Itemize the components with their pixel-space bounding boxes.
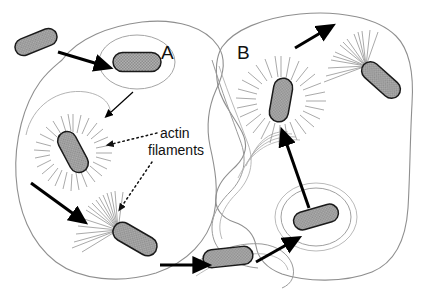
actin-label-line2: filaments xyxy=(148,143,204,158)
bacterium-extracellular xyxy=(12,26,59,58)
cell-b-label: B xyxy=(237,43,250,63)
diagram-canvas xyxy=(0,0,422,292)
actin-comet-tail-cell-a xyxy=(72,191,123,252)
arrow-motility-a xyxy=(31,183,75,215)
bacterium-protrusion xyxy=(202,245,254,268)
bacterium-comet-b xyxy=(358,58,404,102)
bacterium-double-vacuole-b xyxy=(291,202,340,232)
arrow-into-cell-b xyxy=(256,244,288,262)
cell-a-label: A xyxy=(161,43,174,63)
cell-a-nucleus-outline xyxy=(26,91,110,135)
bacterium-actin-cloud-a xyxy=(54,128,91,176)
bacterium-comet-a xyxy=(109,219,160,259)
bacterium-actin-cloud-b xyxy=(268,77,294,124)
leader-comet-tail xyxy=(122,162,152,206)
figure-root: A B actin filaments xyxy=(0,0,422,292)
bacterium-in-vacuole-a xyxy=(113,53,161,72)
arrow-spread-out-b xyxy=(295,32,322,48)
actin-label-line1: actin xyxy=(160,126,190,141)
arrow-escape-a xyxy=(110,92,133,113)
